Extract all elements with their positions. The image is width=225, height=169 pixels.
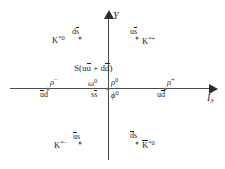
y-axis-label-text: Y [113, 10, 119, 21]
particle-label-rho-minus: ρ− [50, 77, 58, 87]
particle-k-superscript: *0 [148, 139, 155, 146]
quark-s: s [134, 131, 137, 140]
particle-rho-superscript: − [54, 76, 58, 83]
quark-content-k-star-minus: us [73, 132, 80, 141]
particle-label-rho-plus: ρ+ [167, 77, 175, 87]
particle-label-rho-zero: ρ0 [111, 77, 118, 87]
y-axis-label: Y [113, 10, 119, 21]
particle-k-superscript: *+ [148, 35, 155, 42]
state-point-k-star-plus[interactable] [136, 37, 139, 40]
particle-label-omega-zero: ω0 [88, 78, 97, 88]
meson-nonet-diagram: Y I3 ds K*0 us K*+ S(uu + dd) ρ− ud ω0 s… [0, 0, 225, 169]
quark-s: s [77, 132, 80, 141]
particle-rho-superscript: 0 [115, 76, 118, 83]
particle-label-k-star-0-bar: K*0 [142, 140, 155, 150]
particle-label-phi-zero: ϕ0 [111, 90, 119, 100]
state-point-k-star-minus[interactable] [79, 142, 82, 145]
particle-phi-superscript: 0 [115, 89, 118, 96]
center-state-label: S(uu + dd) [74, 63, 113, 73]
quark-content-k-star-plus: us [130, 27, 137, 36]
particle-k-superscript: *0 [58, 34, 65, 41]
quark-content-rho-minus: ud [40, 90, 48, 99]
x-axis-line [10, 88, 210, 89]
x-axis-label: I3 [207, 92, 214, 105]
particle-omega-superscript: 0 [94, 77, 97, 84]
center-state-suffix: ) [110, 63, 113, 73]
quark-content-k-star-0: ds [72, 27, 79, 36]
quark-d-bar: d [161, 90, 165, 99]
state-point-k-star-0[interactable] [79, 37, 82, 40]
x-axis-label-subscript: 3 [210, 97, 214, 105]
center-state-plus: + d [91, 63, 105, 73]
quark-s-bar: s [94, 90, 97, 99]
quark-content-omega-zero: ss [91, 90, 97, 99]
quark-content-k-star-0-bar: ds [130, 131, 137, 140]
particle-rho-superscript: + [171, 76, 175, 83]
particle-label-k-star-0: K*0 [52, 35, 65, 45]
particle-k-superscript: *− [60, 139, 67, 146]
quark-s-bar: s [134, 27, 137, 36]
particle-label-k-star-plus: K*+ [142, 36, 155, 46]
quark-content-rho-plus: ud [157, 90, 165, 99]
state-point-k-star-0-bar[interactable] [136, 142, 139, 145]
state-point-center-states[interactable] [107, 87, 110, 90]
quark-d: d [44, 90, 48, 99]
particle-label-k-star-minus: K*− [54, 140, 67, 150]
center-state-prefix: S(u [74, 63, 87, 73]
quark-s-bar: s [76, 27, 79, 36]
